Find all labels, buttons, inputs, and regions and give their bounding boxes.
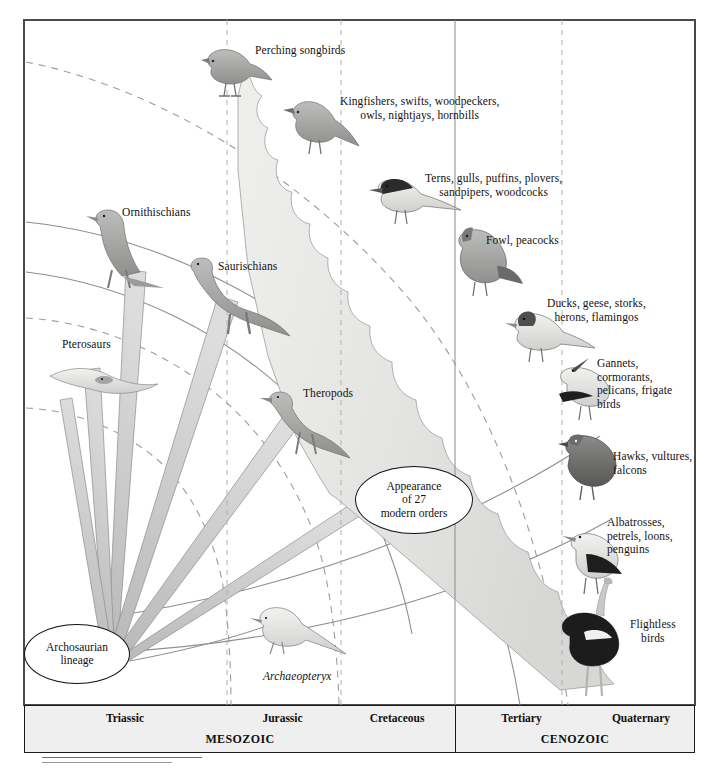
node-archosaurian-label: Archosaurian lineage — [46, 641, 108, 668]
period-cretaceous: Cretaceous — [340, 712, 454, 724]
bird-radiation-fan — [238, 62, 614, 690]
era-cenozoic-label: CENOZOIC — [456, 732, 694, 747]
label-saurischians: Saurischians — [218, 260, 277, 274]
label-ornithischians: Ornithischians — [122, 206, 190, 220]
label-theropods: Theropods — [303, 387, 353, 401]
pterosaur-illustration — [50, 369, 158, 394]
label-terns-group: Terns, gulls, puffins, plovers, sandpipe… — [425, 172, 562, 199]
label-gannets-group: Gannets, cormorants, pelicans, frigate b… — [597, 357, 672, 411]
era-cenozoic: Tertiary Quaternary CENOZOIC — [456, 706, 694, 752]
period-tertiary: Tertiary — [456, 712, 587, 724]
label-hawks-group: Hawks, vultures, falcons — [613, 450, 692, 477]
label-perching-songbirds: Perching songbirds — [255, 44, 345, 58]
era-mesozoic-label: MESOZOIC — [25, 732, 455, 747]
label-flightless-birds: Flightless birds — [630, 618, 676, 645]
fan-body — [238, 62, 614, 690]
label-ducks-group: Ducks, geese, storks, herons, flamingos — [547, 297, 646, 324]
figure-canvas: Archosaurian lineage Appearance of 27 mo… — [0, 0, 718, 775]
era-mesozoic: Triassic Jurassic Cretaceous MESOZOIC — [25, 706, 456, 752]
footer-rule-secondary — [42, 762, 172, 763]
label-kingfishers-group: Kingfishers, swifts, woodpeckers, owls, … — [340, 95, 499, 122]
label-pterosaurs: Pterosaurs — [62, 338, 111, 352]
dinosaur-ornithischian-illustration — [86, 210, 164, 288]
label-archaeopteryx: Archaeopteryx — [263, 670, 332, 684]
period-jurassic: Jurassic — [225, 712, 340, 724]
label-fowl-peacocks: Fowl, peacocks — [486, 234, 559, 248]
period-triassic: Triassic — [25, 712, 225, 724]
node-appearance-modern-orders: Appearance of 27 modern orders — [355, 466, 473, 534]
geologic-timeline: Triassic Jurassic Cretaceous MESOZOIC Te… — [24, 705, 695, 753]
node-archosaurian-lineage: Archosaurian lineage — [24, 624, 130, 684]
footer-rule — [42, 757, 202, 758]
node-modern-orders-label: Appearance of 27 modern orders — [381, 480, 448, 521]
bird-hawk-illustration — [558, 434, 616, 500]
label-albatrosses-group: Albatrosses, petrels, loons, penguins — [607, 516, 673, 557]
archaeopteryx-illustration — [250, 608, 346, 654]
period-quaternary: Quaternary — [587, 712, 695, 724]
